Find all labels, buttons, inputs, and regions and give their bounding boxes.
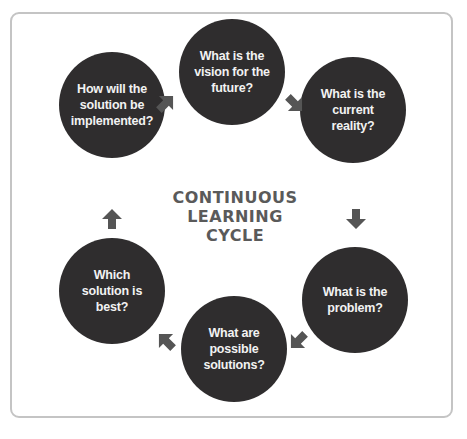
node-implementation: How will the solution be implemented? — [59, 52, 165, 158]
node-possible-solutions-label: What are possible solutions? — [191, 325, 277, 373]
node-problem-label: What is the problem? — [312, 284, 398, 316]
cycle-title-line-1: CONTINUOUS — [150, 188, 320, 207]
node-possible-solutions: What are possible solutions? — [181, 296, 287, 402]
arrow-best-to-implement-icon — [101, 208, 123, 230]
node-problem: What is the problem? — [302, 247, 408, 353]
node-implementation-label: How will the solution be implemented? — [69, 81, 155, 129]
node-vision: What is the vision for the future? — [179, 19, 285, 125]
arrow-reality-to-problem-icon — [345, 208, 367, 230]
cycle-title: CONTINUOUS LEARNING CYCLE — [150, 188, 320, 245]
node-best-solution: Which solution is best? — [59, 238, 165, 344]
node-current-reality-label: What is the current reality? — [310, 86, 396, 134]
node-vision-label: What is the vision for the future? — [189, 48, 275, 96]
cycle-title-line-3: CYCLE — [150, 226, 320, 245]
node-current-reality: What is the current reality? — [300, 57, 406, 163]
cycle-title-line-2: LEARNING — [150, 207, 320, 226]
node-best-solution-label: Which solution is best? — [69, 267, 155, 315]
